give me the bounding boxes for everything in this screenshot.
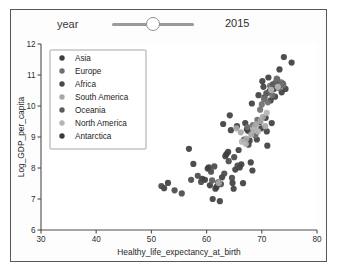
scatter-point xyxy=(221,170,227,176)
scatter-point xyxy=(265,74,271,80)
scatter-point xyxy=(276,66,282,72)
scatter-point xyxy=(171,187,177,193)
x-tick-label: 30 xyxy=(36,235,46,244)
scatter-point xyxy=(265,99,271,105)
legend-label[interactable]: Africa xyxy=(75,80,96,89)
y-tick-label: 8 xyxy=(31,164,36,173)
x-tick-label: 50 xyxy=(147,235,157,244)
scatter-point xyxy=(190,161,196,167)
y-tick-label: 12 xyxy=(26,40,36,49)
chart-legend: AsiaEuropeAfricaSouth AmericaOceaniaNort… xyxy=(50,50,146,149)
legend-label[interactable]: Asia xyxy=(75,54,91,63)
scatter-point xyxy=(208,169,214,175)
scatter-point xyxy=(280,82,286,88)
scatter-point xyxy=(229,175,235,181)
scatter-point xyxy=(264,110,270,116)
scatter-point xyxy=(269,120,275,126)
legend-marker xyxy=(59,120,64,125)
scatter-point xyxy=(262,123,268,129)
scatter-point xyxy=(217,198,223,204)
scatter-point xyxy=(226,158,232,164)
interactive-scatter-widget: year 2015 6789101112304050607080Healthy_… xyxy=(10,9,327,262)
scatter-point xyxy=(209,177,215,183)
scatter-point xyxy=(234,162,240,168)
scatter-point xyxy=(248,159,254,165)
scatter-point xyxy=(269,92,275,98)
scatter-point xyxy=(210,196,216,202)
year-slider-label: year xyxy=(57,18,78,30)
y-tick-label: 6 xyxy=(31,226,36,235)
scatter-point xyxy=(289,60,295,66)
scatter-point xyxy=(264,143,270,149)
legend-marker xyxy=(59,81,64,86)
x-tick-label: 70 xyxy=(257,235,267,244)
legend-marker xyxy=(59,55,64,60)
scatter-point xyxy=(249,167,255,173)
scatter-point xyxy=(231,186,237,192)
legend-label[interactable]: Europe xyxy=(75,67,102,76)
scatter-point xyxy=(259,101,265,107)
x-axis-title: Healthy_life_expectancy_at_birth xyxy=(117,247,241,257)
x-tick-label: 80 xyxy=(312,235,322,244)
legend-label[interactable]: South America xyxy=(75,93,129,102)
scatter-chart-svg: 6789101112304050607080Healthy_life_expec… xyxy=(15,38,322,259)
legend-label[interactable]: North America xyxy=(75,119,127,128)
y-tick-label: 7 xyxy=(31,195,36,204)
scatter-chart: 6789101112304050607080Healthy_life_expec… xyxy=(15,38,322,259)
scatter-point xyxy=(158,183,164,189)
scatter-point xyxy=(188,177,194,183)
legend-marker xyxy=(59,133,64,138)
scatter-point xyxy=(275,84,281,90)
scatter-point xyxy=(243,141,249,147)
scatter-point xyxy=(195,173,201,179)
x-tick-label: 40 xyxy=(92,235,102,244)
scatter-point xyxy=(216,180,222,186)
scatter-point xyxy=(231,154,237,160)
year-slider[interactable] xyxy=(112,17,194,33)
legend-label[interactable]: Oceania xyxy=(75,106,106,115)
scatter-point xyxy=(240,180,246,186)
scatter-point xyxy=(257,107,263,113)
scatter-point xyxy=(268,87,274,93)
scatter-point xyxy=(238,129,244,135)
legend-label[interactable]: Antarctica xyxy=(75,132,112,141)
scatter-point xyxy=(211,163,217,169)
scatter-point xyxy=(255,92,261,98)
x-tick-label: 60 xyxy=(202,235,212,244)
scatter-point xyxy=(259,78,265,84)
scatter-point xyxy=(249,100,255,106)
y-tick-label: 9 xyxy=(31,133,36,142)
y-tick-label: 11 xyxy=(27,71,36,80)
scatter-point xyxy=(227,112,233,118)
scatter-point xyxy=(260,84,266,90)
legend-marker xyxy=(59,107,64,112)
year-slider-handle[interactable] xyxy=(146,17,160,31)
scatter-point xyxy=(236,147,242,153)
y-tick-label: 10 xyxy=(26,102,36,111)
scatter-point xyxy=(225,149,231,155)
y-axis-title: Log_GDP_per_capita xyxy=(16,96,26,177)
scatter-point xyxy=(255,128,261,134)
scatter-point xyxy=(281,54,287,60)
year-slider-value: 2015 xyxy=(225,17,249,29)
legend-marker xyxy=(59,68,64,73)
scatter-point xyxy=(264,128,270,134)
scatter-point xyxy=(186,146,192,152)
scatter-point xyxy=(198,179,204,185)
scatter-point xyxy=(165,180,171,186)
scatter-point xyxy=(220,121,226,127)
clipped-header-scrap xyxy=(0,0,337,9)
legend-marker xyxy=(59,94,64,99)
scatter-point xyxy=(244,124,250,130)
year-slider-row: year 2015 xyxy=(11,10,326,40)
scatter-point xyxy=(228,127,234,133)
scatter-point xyxy=(179,190,185,196)
